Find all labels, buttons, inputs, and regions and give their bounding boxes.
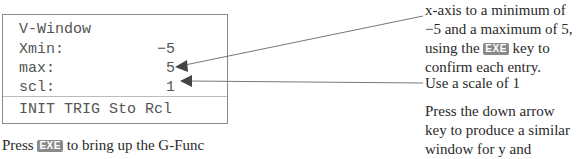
annotation-y-window: Press the down arrow key to produce a si… bbox=[425, 102, 577, 159]
annotation-range: x-axis to a minimum of −5 and a maximum … bbox=[425, 1, 573, 77]
annotation-scale: Use a scale of 1 bbox=[425, 74, 520, 93]
exe-key-icon: EXE bbox=[483, 43, 509, 55]
arrow-head-icon bbox=[175, 60, 188, 72]
bottom-caption: Press EXE to bring up the G-Func bbox=[2, 136, 204, 155]
arrow-head-icon bbox=[180, 75, 192, 87]
exe-key-icon: EXE bbox=[37, 140, 63, 152]
